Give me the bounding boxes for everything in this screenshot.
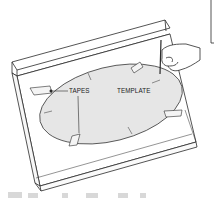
illustration: TAPES TEMPLATE <box>0 0 214 198</box>
template-label: TEMPLATE <box>117 87 151 94</box>
caption-fragment <box>8 192 146 198</box>
tape-right <box>164 110 182 117</box>
tapes-label: TAPES <box>69 87 90 94</box>
frame-edge <box>211 0 214 43</box>
countertop-drawing <box>0 0 214 198</box>
